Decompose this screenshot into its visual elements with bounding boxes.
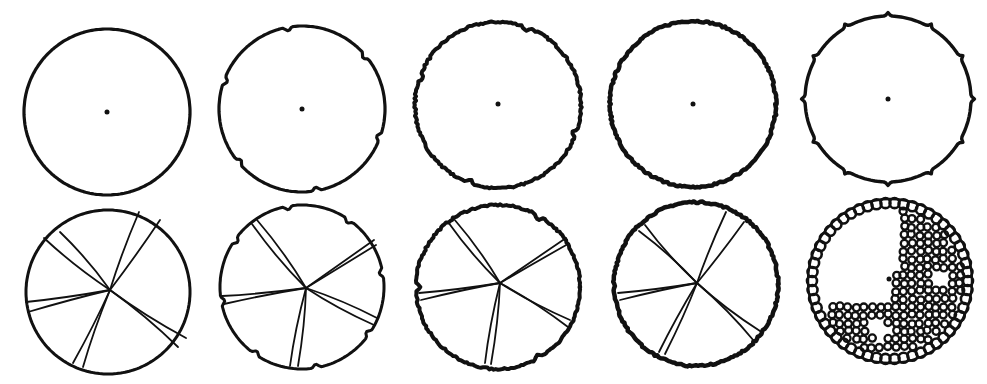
cell (916, 320, 923, 327)
circle-panel-b5 (807, 198, 973, 364)
cell (933, 295, 940, 302)
cell (908, 264, 915, 271)
cell (909, 343, 916, 350)
figure-stage (0, 0, 987, 384)
cell (876, 311, 883, 318)
circle-panel-b2 (220, 205, 384, 369)
cell (949, 295, 956, 302)
center-dot (886, 97, 891, 102)
cell (940, 311, 947, 318)
cell (932, 319, 939, 326)
cell (909, 335, 916, 342)
cell (949, 255, 956, 262)
cell (932, 311, 939, 318)
crack-line (659, 283, 697, 352)
cell (908, 215, 915, 222)
center-dot (300, 107, 305, 112)
cell (836, 311, 843, 318)
cell (861, 328, 868, 335)
cell (949, 311, 956, 318)
cell (917, 303, 924, 310)
crack-line (257, 220, 306, 288)
cell (860, 303, 867, 310)
crack-line (448, 222, 500, 283)
cell (893, 343, 900, 350)
cell (868, 344, 875, 351)
cell (925, 287, 932, 294)
cell (908, 256, 915, 263)
cell (956, 279, 963, 286)
crack-line (110, 220, 160, 290)
cell (852, 312, 859, 319)
top-row (24, 13, 975, 196)
cell (932, 224, 939, 231)
circle-panel-b3 (416, 204, 580, 369)
cell (916, 311, 923, 318)
crack-line (252, 224, 306, 288)
crack-line (110, 290, 186, 338)
crack-line (697, 212, 726, 283)
cell (899, 303, 906, 310)
cell (933, 232, 940, 239)
cell (885, 310, 892, 317)
cell (924, 270, 931, 277)
cell (843, 335, 850, 342)
bottom-row (26, 198, 973, 374)
cell (868, 312, 875, 319)
crack-line (697, 222, 744, 283)
circle-panel-b1 (26, 210, 190, 374)
cell (924, 262, 931, 269)
cell (836, 320, 843, 327)
cell (908, 287, 915, 294)
cell (900, 288, 907, 295)
cell (940, 255, 947, 262)
crack-line (500, 244, 568, 283)
center-dot (887, 277, 892, 282)
crack-line (697, 283, 754, 341)
cell (876, 344, 883, 351)
cell (925, 247, 932, 254)
cell (869, 334, 876, 341)
cell (892, 303, 899, 310)
cell (924, 336, 931, 343)
crack-line (73, 290, 110, 363)
cell (853, 304, 860, 311)
circle-panel-b4 (613, 201, 778, 366)
cell (900, 320, 907, 327)
cell (884, 319, 891, 326)
cell (941, 231, 948, 238)
circle-panel-t3 (414, 22, 581, 189)
center-dot (691, 102, 696, 107)
cell (899, 271, 906, 278)
cell (933, 328, 940, 335)
cell (916, 286, 923, 293)
circle-panel-t2 (219, 26, 385, 192)
cell (853, 327, 860, 334)
crack-line (306, 245, 376, 288)
cell (869, 303, 876, 310)
cell (860, 319, 867, 326)
cell (892, 312, 899, 319)
cell (836, 302, 843, 309)
cell (845, 327, 852, 334)
cell (957, 271, 964, 278)
crack-line (110, 212, 139, 290)
cell (892, 335, 899, 342)
cell (901, 240, 908, 247)
circle-rim (26, 210, 190, 374)
cell (916, 272, 923, 279)
circle-diagram-figure (0, 0, 987, 384)
cell (940, 304, 947, 311)
cell (893, 327, 900, 334)
cell (925, 239, 932, 246)
crack-line (298, 288, 306, 366)
cell (893, 279, 900, 286)
cell (917, 240, 924, 247)
crack-line (110, 290, 178, 347)
cell (885, 335, 892, 342)
cell (940, 264, 947, 271)
cell (908, 231, 915, 238)
cell (901, 280, 908, 287)
cell (916, 264, 923, 271)
cell (909, 295, 916, 302)
